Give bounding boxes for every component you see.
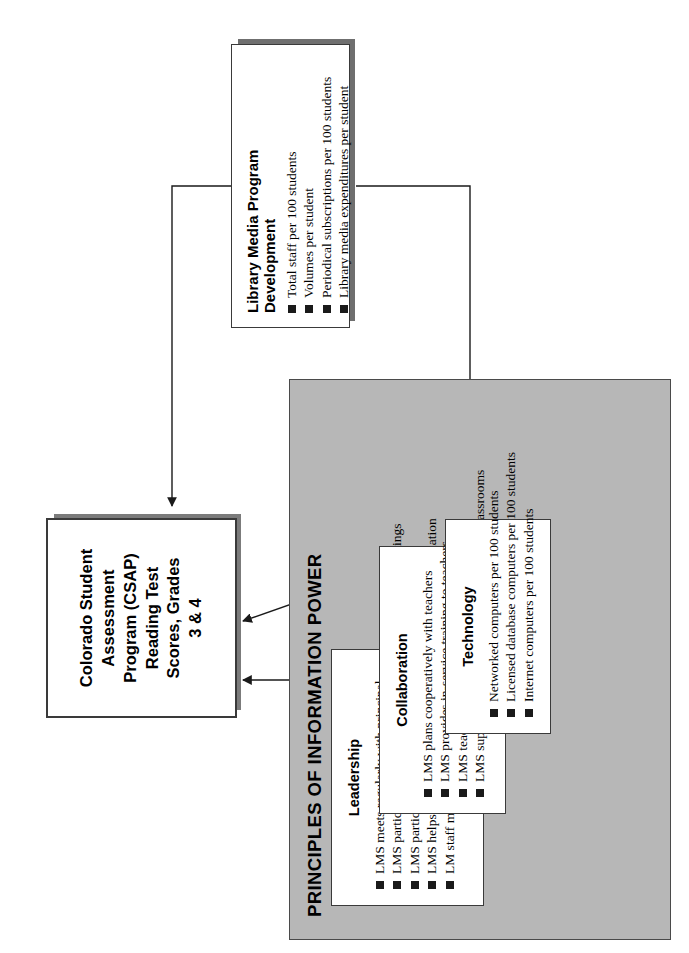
bullet-square-icon — [424, 789, 432, 797]
csap-line-1: Colorado Student — [76, 549, 98, 687]
list-item: Networked computers per 100 students — [486, 536, 502, 717]
bullet-square-icon — [376, 881, 384, 889]
list-item: Total staff per 100 students — [284, 59, 300, 313]
bullet-square-icon — [411, 881, 419, 889]
library-media-program-development-box: Library Media Program Development Total … — [231, 44, 350, 328]
bullet-square-icon — [288, 305, 296, 313]
principle-title-technology: Technology — [460, 536, 476, 717]
list-item: Internet computers per 100 students — [521, 536, 537, 717]
list-item: Periodical subscriptions per 100 student… — [319, 59, 335, 313]
list-item-label: Periodical subscriptions per 100 student… — [319, 77, 335, 298]
connector-lmpd-to-csap — [172, 186, 231, 506]
bullet-square-icon — [428, 881, 436, 889]
lmpd-title: Library Media Program Development — [244, 59, 278, 313]
csap-line-3: Program (CSAP) — [120, 549, 142, 687]
principle-box-technology: Technology Networked computers per 100 s… — [445, 519, 551, 734]
csap-outcome-label: Colorado Student Assessment Program (CSA… — [76, 541, 208, 695]
bullet-square-icon — [490, 709, 498, 717]
bullet-square-icon — [340, 305, 348, 313]
bullet-square-icon — [441, 789, 449, 797]
list-item-label: Networked computers per 100 students — [486, 491, 502, 702]
list-item: Library media expenditures per student — [336, 59, 352, 313]
csap-line-2: Assessment — [98, 549, 120, 687]
principle-title-collaboration: Collaboration — [394, 563, 410, 797]
bullet-square-icon — [393, 881, 401, 889]
list-item: Licensed database computers per 100 stud… — [503, 536, 519, 717]
bullet-square-icon — [459, 789, 467, 797]
csap-line-6: 3 & 4 — [185, 549, 207, 687]
principle-title-leadership: Leadership — [346, 666, 362, 889]
bullet-square-icon — [525, 709, 533, 717]
bullet-square-icon — [305, 305, 313, 313]
list-item: LMS plans cooperatively with teachers — [420, 563, 436, 797]
principle-list-technology: Networked computers per 100 students Lic… — [486, 536, 537, 717]
list-item: Volumes per student — [301, 59, 317, 313]
list-item-label: Internet computers per 100 students — [521, 509, 537, 702]
csap-line-5: Scores, Grades — [163, 549, 185, 687]
csap-line-4: Reading Test — [142, 549, 164, 687]
bullet-square-icon — [476, 789, 484, 797]
list-item-label: Library media expenditures per student — [336, 86, 352, 298]
bullet-square-icon — [446, 881, 454, 889]
list-item-label: LMS plans cooperatively with teachers — [420, 571, 436, 782]
bullet-square-icon — [507, 709, 515, 717]
lmpd-list: Total staff per 100 students Volumes per… — [284, 59, 353, 313]
figure-canvas: Figure 3 How School Librarians Help Kids… — [0, 0, 689, 953]
bullet-square-icon — [323, 305, 331, 313]
principles-panel-heading: PRINCIPLES OF INFORMATION POWER — [304, 553, 326, 917]
list-item-label: Total staff per 100 students — [284, 151, 300, 298]
csap-outcome-box: Colorado Student Assessment Program (CSA… — [46, 518, 237, 718]
list-item-label: Volumes per student — [301, 188, 317, 298]
list-item-label: Licensed database computers per 100 stud… — [503, 452, 519, 702]
